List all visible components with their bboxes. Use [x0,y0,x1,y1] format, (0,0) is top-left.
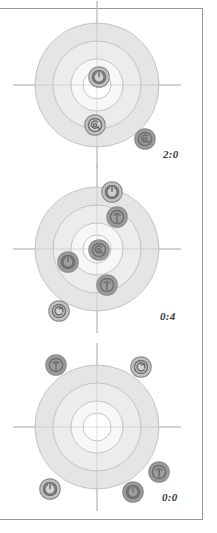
curling-stone[interactable] [101,181,123,203]
stone-glyph-power-swirl-icon [57,251,79,273]
stone-glyph-spiral-at-icon [84,114,106,136]
curling-stone[interactable] [88,239,110,261]
curling-stone[interactable] [39,478,61,500]
curling-stone[interactable] [96,274,118,296]
curling-stone[interactable] [48,300,70,322]
stone-glyph-antenna-icon [148,461,170,483]
panel-score-label: 0:0 [162,491,178,503]
house-rings [9,339,185,515]
curling-stone[interactable] [57,251,79,273]
page-rule-right [202,8,203,520]
curling-stone[interactable] [148,461,170,483]
curling-stone[interactable] [45,354,67,376]
diagram-sheet: 2:0 [0,0,217,533]
stone-glyph-antenna-icon [96,274,118,296]
stone-glyph-power-swirl-icon [88,66,110,88]
stone-glyph-antenna-icon [45,354,67,376]
curling-stone[interactable] [88,66,110,88]
stone-glyph-antenna-icon [106,206,128,228]
stone-glyph-arrow-loop-icon [48,300,70,322]
curling-stone[interactable] [122,481,144,503]
panel-score-label: 0:4 [160,310,176,322]
stone-glyph-power-swirl-icon [39,478,61,500]
curling-stone[interactable] [106,206,128,228]
stone-glyph-spiral-dark-icon [88,239,110,261]
curling-stone[interactable] [134,128,156,150]
curling-stone[interactable] [130,356,152,378]
stone-glyph-power-swirl-icon [122,481,144,503]
stone-glyph-power-swirl-icon [101,181,123,203]
page-rule-bottom [0,519,203,520]
curling-house [9,339,185,515]
stone-glyph-arrow-loop-icon [130,356,152,378]
panel-score-label: 2:0 [163,148,179,160]
curling-stone[interactable] [84,114,106,136]
stone-glyph-spiral-dark-icon [134,128,156,150]
